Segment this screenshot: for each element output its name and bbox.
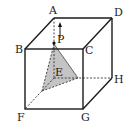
label-f: F <box>17 111 25 124</box>
label-d: D <box>114 6 123 19</box>
label-g: G <box>81 111 90 124</box>
label-p: P <box>57 33 65 46</box>
label-e: E <box>55 66 63 79</box>
label-h: H <box>114 73 124 86</box>
label-a: A <box>48 4 58 17</box>
cube-diagram: A D B C P E H F G <box>0 0 129 127</box>
point-p <box>52 41 55 44</box>
label-b: B <box>15 43 23 56</box>
label-c: C <box>85 44 93 57</box>
